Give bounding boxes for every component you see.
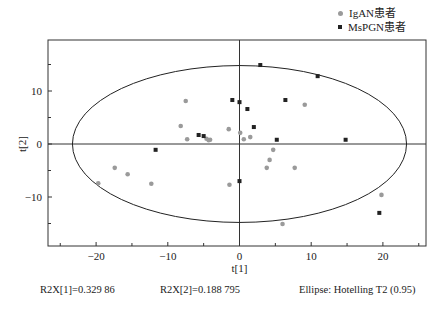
data-point-circle — [264, 166, 269, 171]
x-tick-label: 20 — [377, 250, 389, 262]
plot-frame — [48, 40, 426, 246]
data-point-circle — [227, 183, 232, 188]
data-point-square — [197, 133, 201, 137]
data-point-circle — [267, 158, 272, 163]
data-point-circle — [271, 148, 276, 153]
data-point-circle — [112, 166, 117, 171]
data-point-circle — [280, 222, 285, 227]
data-point-circle — [149, 181, 154, 186]
y-axis-label: t[2] — [16, 136, 28, 152]
data-point-circle — [185, 137, 190, 142]
score-plot: −20−1001020−10010t[1]t[2] — [0, 0, 443, 310]
data-point-circle — [125, 172, 130, 177]
data-point-circle — [292, 166, 297, 171]
ellipse-label: Ellipse: Hotelling T2 (0.95) — [299, 284, 415, 295]
data-point-square — [258, 63, 262, 67]
data-point-circle — [238, 131, 243, 136]
data-point-square — [154, 148, 158, 152]
r2x1-label: R2X[1]=0.329 86 — [40, 284, 115, 295]
data-point-square — [252, 125, 256, 129]
x-tick-label: 0 — [237, 250, 243, 262]
data-point-square — [238, 179, 242, 183]
legend: IgAN患者 MsPGN患者 — [338, 6, 406, 34]
x-axis-label: t[1] — [232, 262, 248, 274]
data-point-square — [275, 138, 279, 142]
legend-label-igan: IgAN患者 — [349, 6, 396, 20]
data-point-square — [377, 211, 381, 215]
y-tick-label: −10 — [25, 191, 43, 203]
circle-marker-icon — [338, 11, 343, 16]
data-point-circle — [242, 137, 247, 142]
data-point-square — [283, 98, 287, 102]
data-point-circle — [248, 135, 253, 140]
data-point-circle — [226, 127, 231, 132]
y-tick-label: 10 — [31, 85, 43, 97]
data-point-circle — [379, 193, 384, 198]
data-point-square — [202, 134, 206, 138]
x-tick-label: 10 — [306, 250, 318, 262]
data-point-circle — [183, 99, 188, 104]
x-tick-label: −10 — [159, 250, 177, 262]
legend-item-mspgn: MsPGN患者 — [338, 20, 406, 34]
legend-label-mspgn: MsPGN患者 — [348, 20, 406, 34]
data-point-circle — [96, 181, 101, 186]
data-point-square — [344, 138, 348, 142]
data-point-circle — [208, 137, 213, 142]
y-tick-label: 0 — [37, 138, 43, 150]
square-marker-icon — [338, 25, 342, 29]
data-point-square — [238, 100, 242, 104]
x-tick-label: −20 — [87, 250, 105, 262]
data-point-circle — [178, 124, 183, 129]
r2x2-label: R2X[2]=0.188 795 — [160, 284, 240, 295]
data-point-square — [316, 74, 320, 78]
data-point-circle — [302, 102, 307, 107]
data-point-square — [245, 107, 249, 111]
legend-item-igan: IgAN患者 — [338, 6, 406, 20]
data-point-square — [230, 98, 234, 102]
